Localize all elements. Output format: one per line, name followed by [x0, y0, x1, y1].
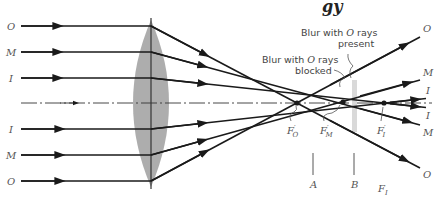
svg-text:present: present	[338, 38, 374, 49]
svg-text:O: O	[423, 169, 431, 180]
svg-text:M: M	[422, 67, 434, 78]
focal-label-m: F′M	[319, 124, 334, 139]
focal-label-o: F′O	[286, 124, 299, 139]
svg-text:O: O	[7, 21, 15, 32]
svg-text:I: I	[8, 124, 14, 135]
svg-text:Blur with O rays: Blur with O rays	[262, 54, 338, 65]
svg-text:A: A	[309, 179, 317, 190]
svg-text:blocked: blocked	[295, 65, 332, 76]
focal-label-i: F′I	[376, 124, 386, 139]
spherical-aberration-diagram: gy	[0, 0, 438, 211]
annotation-blur-blocked: Blur with O rays blocked	[262, 54, 338, 76]
right-ray-labels: O M I I M O	[422, 23, 434, 180]
svg-text:Blur with O rays: Blur with O rays	[301, 27, 377, 38]
title-fragment: gy	[322, 0, 344, 16]
annotation-blur-present: Blur with O rayspresent	[301, 27, 377, 49]
converging-lens	[133, 18, 169, 189]
svg-text:O: O	[7, 176, 15, 187]
svg-text:I: I	[425, 110, 431, 121]
focal-point-o	[294, 100, 299, 105]
svg-text:FI: FI	[377, 183, 388, 197]
svg-text:B: B	[350, 179, 358, 190]
svg-text:M: M	[5, 47, 17, 58]
svg-text:I: I	[425, 85, 431, 96]
svg-text:M: M	[422, 127, 434, 138]
svg-text:M: M	[5, 150, 17, 161]
plane-markers	[313, 153, 354, 175]
plane-labels: A B FI	[309, 179, 388, 197]
svg-text:O: O	[423, 23, 431, 34]
svg-text:I: I	[8, 73, 14, 84]
focal-labels: F′O F′M F′I	[286, 124, 386, 139]
left-ray-labels: O M I I M O	[5, 21, 17, 187]
focal-point-m	[340, 99, 345, 104]
focal-point-i	[381, 100, 386, 105]
incoming-rays	[21, 26, 151, 181]
